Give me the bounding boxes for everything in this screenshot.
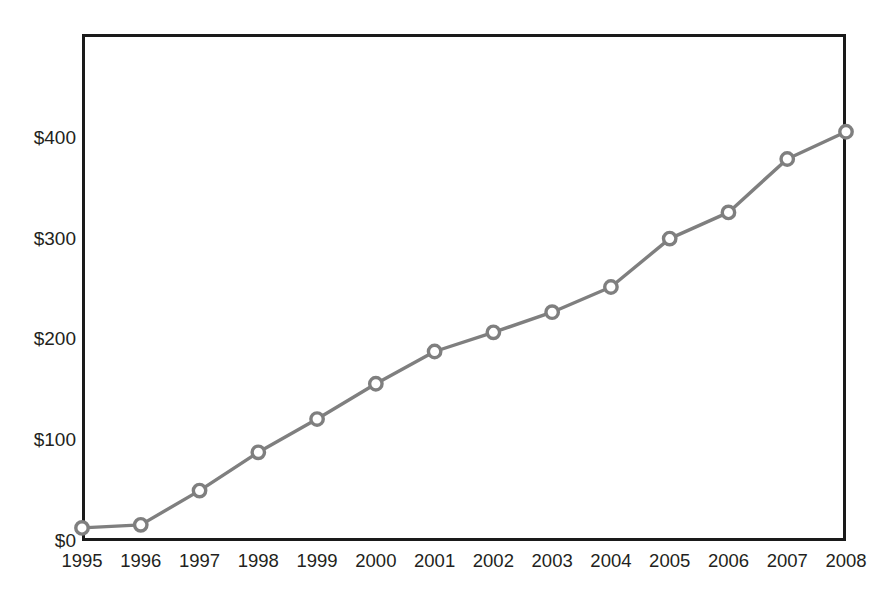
x-axis-tick-label: 2003 [520,552,584,571]
line-chart: $0$100$200$300$400 199519961997199819992… [0,0,882,597]
x-axis-tick-label: 2006 [696,552,760,571]
x-axis-tick-label: 1995 [50,552,114,571]
x-axis-tick-label: 1997 [168,552,232,571]
x-axis-tick-label: 2004 [579,552,643,571]
x-axis-tick-label: 1999 [285,552,349,571]
x-axis-tick-label: 1996 [109,552,173,571]
x-axis-tick-label: 2007 [755,552,819,571]
x-axis-tick-labels: 1995199619971998199920002001200220032004… [0,0,882,597]
x-axis-tick-label: 2002 [461,552,525,571]
x-axis-tick-label: 2008 [814,552,878,571]
x-axis-tick-label: 1998 [226,552,290,571]
x-axis-tick-label: 2005 [638,552,702,571]
x-axis-tick-label: 2001 [403,552,467,571]
x-axis-tick-label: 2000 [344,552,408,571]
